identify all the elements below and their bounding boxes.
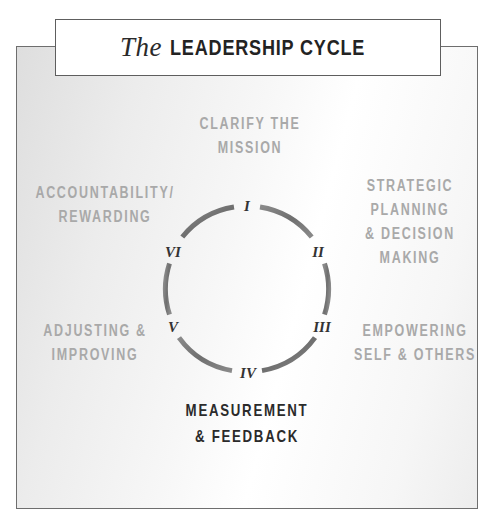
cycle-arcs: [165, 207, 328, 371]
stage-line: EMPOWERING: [329, 319, 496, 343]
arc-iv-v: [179, 338, 232, 371]
stage-line: MAKING: [336, 246, 484, 270]
stage-line: ADJUSTING &: [17, 319, 173, 343]
stage-line: REWARDING: [11, 205, 198, 229]
stage-line: & DECISION: [336, 222, 484, 246]
stage-line: MEASUREMENT: [169, 398, 325, 424]
arc-iii-iv: [262, 338, 315, 371]
numeral-i: I: [243, 198, 251, 214]
stage-line: STRATEGIC: [336, 174, 484, 198]
numeral-vi: VI: [165, 244, 182, 260]
stage-line: ACCOUNTABILITY/: [11, 181, 198, 205]
arc-v-vi: [165, 263, 169, 314]
stage-label-adjusting-improving: ADJUSTING & IMPROVING: [17, 319, 173, 367]
stage-label-accountability-rewarding: ACCOUNTABILITY/ REWARDING: [11, 181, 198, 229]
stage-line: IMPROVING: [17, 343, 173, 367]
stage-label-empowering: EMPOWERING SELF & OTHERS: [329, 319, 496, 367]
arc-ii-iii: [325, 263, 329, 314]
stage-line: PLANNING: [336, 198, 484, 222]
stage-label-measurement-feedback: MEASUREMENT & FEEDBACK: [169, 398, 325, 450]
stage-line: SELF & OTHERS: [329, 343, 496, 367]
stage-line: MISSION: [172, 136, 328, 160]
stage-line: CLARIFY THE: [172, 112, 328, 136]
stage-label-clarify-mission: CLARIFY THE MISSION: [172, 112, 328, 160]
numeral-ii: II: [311, 244, 325, 260]
stage-line: & FEEDBACK: [169, 424, 325, 450]
numeral-iv: IV: [239, 365, 258, 381]
arc-i-ii: [260, 207, 312, 237]
stage-label-strategic-planning: STRATEGIC PLANNING & DECISION MAKING: [336, 174, 484, 270]
